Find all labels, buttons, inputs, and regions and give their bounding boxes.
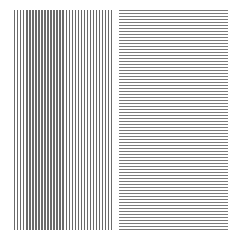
vertical-grating <box>14 10 114 230</box>
horizontal-grating <box>119 10 228 231</box>
